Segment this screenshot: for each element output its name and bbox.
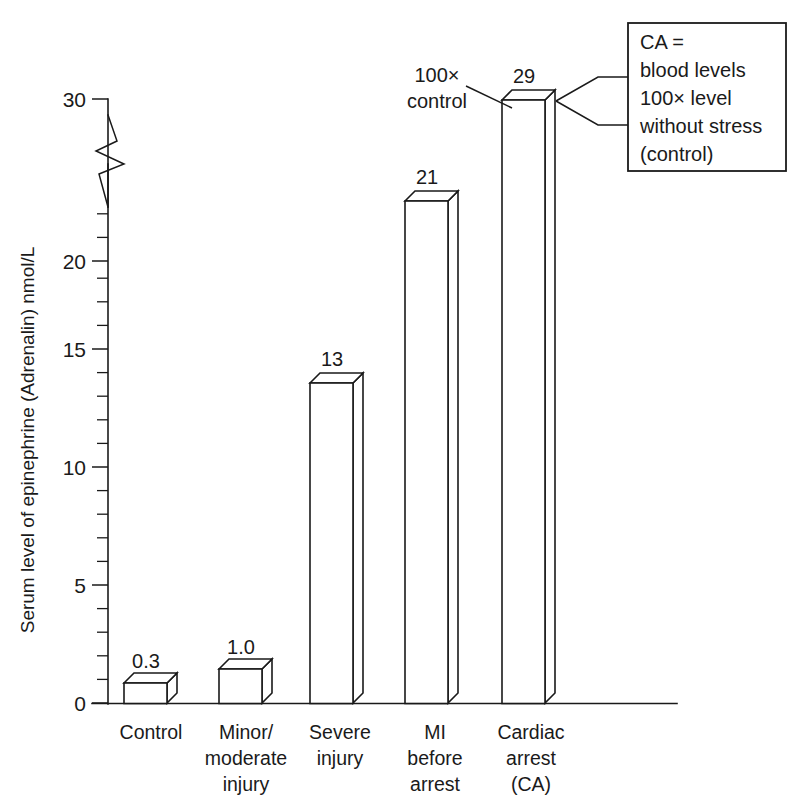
legend-line-4: without stress <box>639 115 762 137</box>
bar-cardiac-arrest[interactable]: 29 <box>502 65 555 704</box>
y-tick-label-5: 5 <box>74 574 86 597</box>
legend-leader-upper <box>556 77 628 101</box>
legend-callout-box: CA = blood levels 100× level without str… <box>556 23 786 171</box>
y-tick-10: 10 <box>63 456 108 479</box>
legend-line-3: 100× level <box>640 87 732 109</box>
callout-line-2: control <box>407 90 467 112</box>
y-minor-ticks <box>97 214 108 680</box>
bar-value-mi-before-arrest: 21 <box>416 166 438 188</box>
cat-label-minor-line1: Minor/ <box>219 721 274 743</box>
bar-value-control: 0.3 <box>132 650 160 672</box>
cat-label-cardiac-line2: arrest <box>506 747 556 769</box>
cat-label-severe-line2: injury <box>317 747 364 769</box>
y-tick-20: 20 <box>63 250 108 273</box>
bar-value-minor-moderate-injury: 1.0 <box>227 636 255 658</box>
y-tick-label-0: 0 <box>74 692 86 715</box>
legend-line-2: blood levels <box>640 59 746 81</box>
y-tick-label-20: 20 <box>63 250 86 273</box>
bar-severe-injury[interactable]: 13 <box>310 348 363 704</box>
cat-label-mi-line1: MI <box>424 721 446 743</box>
cat-label-control-line1: Control <box>120 721 183 743</box>
y-tick-0: 0 <box>74 692 108 715</box>
cat-label-mi-line2: before <box>407 747 462 769</box>
bar-value-cardiac-arrest: 29 <box>513 65 535 87</box>
callout-100x-control: 100× control <box>407 64 512 112</box>
y-tick-label-15: 15 <box>63 338 86 361</box>
y-tick-15: 15 <box>63 338 108 361</box>
cat-label-cardiac-line3: (CA) <box>511 773 551 795</box>
cat-label-minor-line3: injury <box>223 773 270 795</box>
legend-leader-lower <box>556 101 628 125</box>
y-axis-title: Serum level of epinephrine (Adrenalin) n… <box>17 247 38 634</box>
y-tick-label-10: 10 <box>63 456 86 479</box>
chart-container: Serum level of epinephrine (Adrenalin) n… <box>0 0 798 805</box>
x-axis-category-labels: Control Minor/ moderate injury Severe in… <box>120 721 565 795</box>
cat-label-cardiac-line1: Cardiac <box>497 721 564 743</box>
epinephrine-bar-chart: Serum level of epinephrine (Adrenalin) n… <box>0 0 798 805</box>
bar-control[interactable]: 0.3 <box>124 650 177 704</box>
y-tick-label-30: 30 <box>63 88 86 111</box>
legend-line-5: (control) <box>640 143 713 165</box>
cat-label-minor-line2: moderate <box>205 747 287 769</box>
callout-line-1: 100× <box>414 64 459 86</box>
bar-value-severe-injury: 13 <box>321 348 343 370</box>
cat-label-mi-line3: arrest <box>410 773 460 795</box>
y-tick-5: 5 <box>74 574 108 597</box>
y-axis-break-zigzag <box>96 115 124 207</box>
legend-line-1: CA = <box>640 31 684 53</box>
y-tick-30: 30 <box>63 88 108 111</box>
bar-mi-before-arrest[interactable]: 21 <box>405 166 458 704</box>
cat-label-severe-line1: Severe <box>309 721 371 743</box>
bar-minor-moderate-injury[interactable]: 1.0 <box>219 636 272 704</box>
